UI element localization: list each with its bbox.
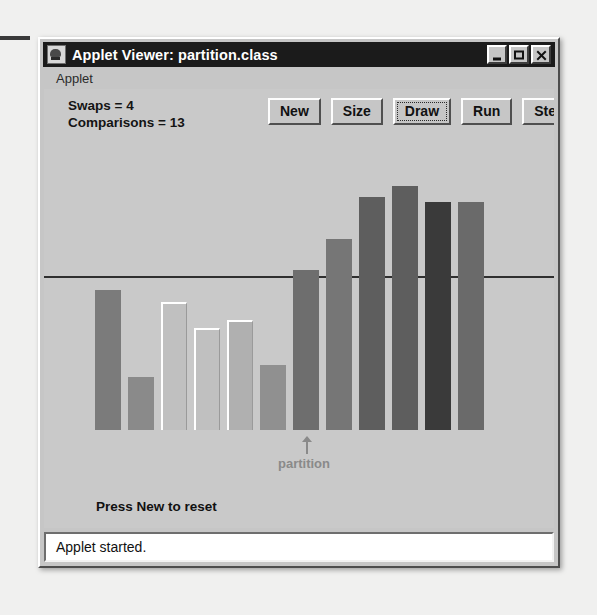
instruction-message: Press New to reset — [96, 499, 217, 514]
chart-bar — [194, 328, 220, 430]
arrow-stem — [306, 439, 308, 454]
partition-arrow-icon — [301, 436, 312, 454]
window-controls — [487, 45, 552, 64]
partition-bar-chart: partition — [44, 89, 554, 528]
chart-bar — [359, 197, 385, 430]
chart-bar — [326, 239, 352, 430]
partition-label: partition — [278, 456, 330, 471]
window-title: Applet Viewer: partition.class — [72, 47, 278, 63]
close-icon — [536, 49, 547, 60]
scan-artifact — [0, 36, 30, 40]
maximize-icon — [514, 50, 524, 59]
applet-viewer-icon — [47, 45, 66, 64]
chart-bar — [161, 302, 187, 430]
close-button[interactable] — [531, 45, 551, 64]
chart-bar — [392, 186, 418, 430]
menu-item-applet[interactable]: Applet — [53, 70, 96, 87]
minimize-button[interactable] — [487, 45, 507, 64]
menubar: Applet — [44, 69, 554, 89]
applet-viewer-window: Applet Viewer: partition.class Applet Sw… — [38, 37, 560, 568]
maximize-button[interactable] — [509, 45, 529, 64]
chart-bar — [128, 377, 154, 430]
window-titlebar[interactable]: Applet Viewer: partition.class — [43, 42, 555, 67]
chart-bar — [425, 202, 451, 430]
chart-bar — [95, 290, 121, 430]
minimize-icon — [493, 57, 501, 60]
chart-bar — [260, 365, 286, 430]
screenshot-page: Applet Viewer: partition.class Applet Sw… — [0, 0, 597, 615]
applet-canvas: Swaps = 4 Comparisons = 13 New Size Draw… — [44, 89, 554, 528]
chart-bar — [293, 270, 319, 430]
chart-bar — [458, 202, 484, 430]
status-bar: Applet started. — [44, 532, 554, 562]
chart-bar — [227, 320, 253, 430]
status-text: Applet started. — [46, 539, 146, 555]
